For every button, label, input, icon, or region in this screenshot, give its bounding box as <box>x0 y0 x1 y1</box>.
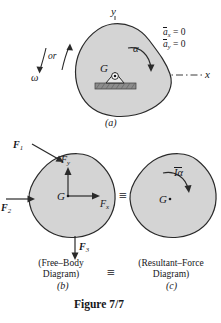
center-of-mass-dot-a <box>114 75 117 78</box>
moment-symbol: Iα <box>174 168 183 179</box>
center-of-mass-label-c: G <box>159 194 167 205</box>
condition-ay-subscript: y <box>168 43 171 50</box>
x-axis-label: x <box>205 69 210 80</box>
force-fx-label: Fx <box>100 199 109 211</box>
moment-label: Iα <box>174 168 183 179</box>
force-f1-arrow-line <box>32 144 60 160</box>
resultant-force-caption-line1: (Resultant–Force <box>124 258 218 269</box>
condition-ay-value: = 0 <box>173 39 185 49</box>
condition-ax: ax = 0 <box>163 28 185 38</box>
condition-ay-symbol: a <box>163 40 168 50</box>
angular-acceleration-label: α <box>133 44 139 55</box>
rigid-body-shape-a <box>76 24 172 117</box>
support-base-bar <box>95 83 136 89</box>
figure-7-7: y x G α ω or ax = 0 ay = 0 (a) F1 F2 F3 … <box>0 0 221 323</box>
force-f2-subscript: 2 <box>8 207 11 214</box>
y-axis-label: y <box>111 6 116 17</box>
condition-ax-value: = 0 <box>173 27 185 37</box>
force-f3-subscript: 3 <box>86 246 89 253</box>
free-body-caption-line2: Diagram) <box>22 269 100 280</box>
center-of-mass-dot-b <box>67 195 70 198</box>
or-text: or <box>48 52 56 62</box>
omega-up-arrowhead <box>67 44 74 51</box>
force-fx-subscript: x <box>106 203 109 210</box>
force-f3-label: F3 <box>79 242 89 254</box>
force-f3-name: F <box>79 241 86 252</box>
panel-a-label: (a) <box>105 118 117 128</box>
force-f2-label: F2 <box>1 203 11 215</box>
resultant-force-caption-line2: Diagram) <box>124 269 218 280</box>
omega-down-arc <box>40 48 46 70</box>
condition-ax-subscript: x <box>168 31 171 38</box>
force-fy-label: Fy <box>61 155 70 167</box>
center-of-mass-label-a: G <box>100 63 108 74</box>
free-body-diagram-caption: (Free–Body Diagram) <box>22 258 100 280</box>
resultant-force-diagram-caption: (Resultant–Force Diagram) <box>124 258 218 280</box>
center-of-mass-label-b: G <box>57 191 65 202</box>
equivalence-symbol-diagrams: ≡ <box>119 189 127 203</box>
force-fy-subscript: y <box>67 159 70 166</box>
omega-up-arc <box>62 47 69 70</box>
force-f1-label: F1 <box>13 140 23 152</box>
center-of-mass-dot-c <box>169 198 172 201</box>
force-f1-subscript: 1 <box>20 144 23 151</box>
angular-velocity-label: ω <box>31 73 38 84</box>
free-body-caption-line1: (Free–Body <box>22 258 100 269</box>
figure-caption: Figure 7/7 <box>74 299 124 311</box>
panel-b-label: (b) <box>57 281 69 291</box>
panel-c-label: (c) <box>166 281 177 291</box>
equivalence-symbol-captions: ≡ <box>107 266 115 280</box>
force-f1-name: F <box>13 139 20 150</box>
condition-ax-symbol: a <box>163 28 168 38</box>
force-f2-name: F <box>1 202 8 213</box>
condition-ay: ay = 0 <box>163 40 185 50</box>
